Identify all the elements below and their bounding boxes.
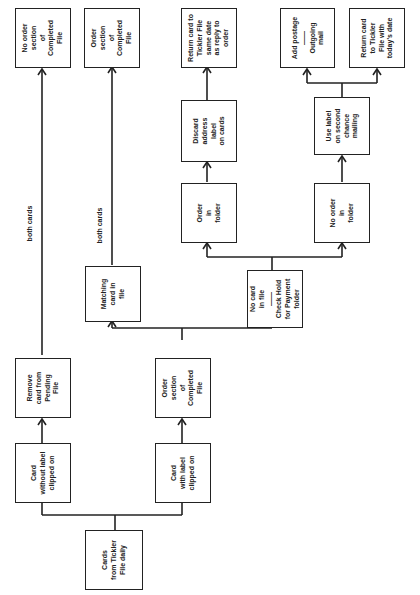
node-matching-card-text: Matching card in file <box>100 279 126 310</box>
node-return-card-today: Return card to Tickler File with today's… <box>349 8 405 68</box>
node-remove-card-pending: Remove card from Pending File <box>15 358 71 418</box>
node-discard-address-label-text: Discard address label on cards <box>192 116 227 145</box>
node-return-card-same-date: Return card to Tickler File same date as… <box>181 8 237 68</box>
node-order-section-completed-1-text: Order section of Completed File <box>161 370 205 406</box>
node-card-with-label: Card with label clipped on <box>155 443 211 503</box>
connector-lines <box>0 0 420 595</box>
node-order-in-folder: Order in folder <box>181 183 237 243</box>
node-order-in-folder-text: Order in folder <box>196 203 222 222</box>
node-order-section-completed-1: Order section of Completed File <box>155 358 211 418</box>
node-return-card-today-text: Return card to Tickler File with today's… <box>360 18 395 59</box>
node-return-card-same-date-text: Return card to Tickler File same date as… <box>187 14 231 62</box>
node-card-without-label-text: Card without label clipped on <box>30 452 56 495</box>
node-card-with-label-text: Card with label clipped on <box>170 456 196 491</box>
edge-label-both-cards-1: both cards <box>26 206 33 242</box>
node-use-label-second-mailing-text: Use label on second chance mailing <box>325 108 360 143</box>
node-order-section-completed-2-text: Order section of Completed File <box>90 20 134 56</box>
node-card-without-label: Card without label clipped on <box>15 443 71 503</box>
node-no-card-in-file-text: No card in file —— Check Hold for Paymen… <box>249 279 302 319</box>
node-matching-card: Matching card in file <box>85 266 141 322</box>
node-use-label-second-mailing: Use label on second chance mailing <box>314 97 370 155</box>
node-start-text: Cards from Tickler File daily <box>101 540 127 580</box>
node-start: Cards from Tickler File daily <box>85 530 143 590</box>
node-no-order-section-completed-text: No order section of Completed File <box>21 20 65 56</box>
node-discard-address-label: Discard address label on cards <box>181 100 237 162</box>
node-remove-card-pending-text: Remove card from Pending File <box>26 372 61 404</box>
node-no-card-in-file: No card in file —— Check Hold for Paymen… <box>247 270 303 328</box>
edge-label-both-cards-2: both cards <box>96 208 103 244</box>
node-order-section-completed-2: Order section of Completed File <box>84 8 140 68</box>
node-add-postage: Add postage —— Outgoing mail <box>280 8 335 68</box>
node-add-postage-text: Add postage —— Outgoing mail <box>290 17 325 59</box>
node-no-order-in-folder-text: No order in folder <box>329 198 355 227</box>
node-no-order-in-folder: No order in folder <box>314 183 370 243</box>
node-no-order-section-completed: No order section of Completed File <box>15 8 71 68</box>
